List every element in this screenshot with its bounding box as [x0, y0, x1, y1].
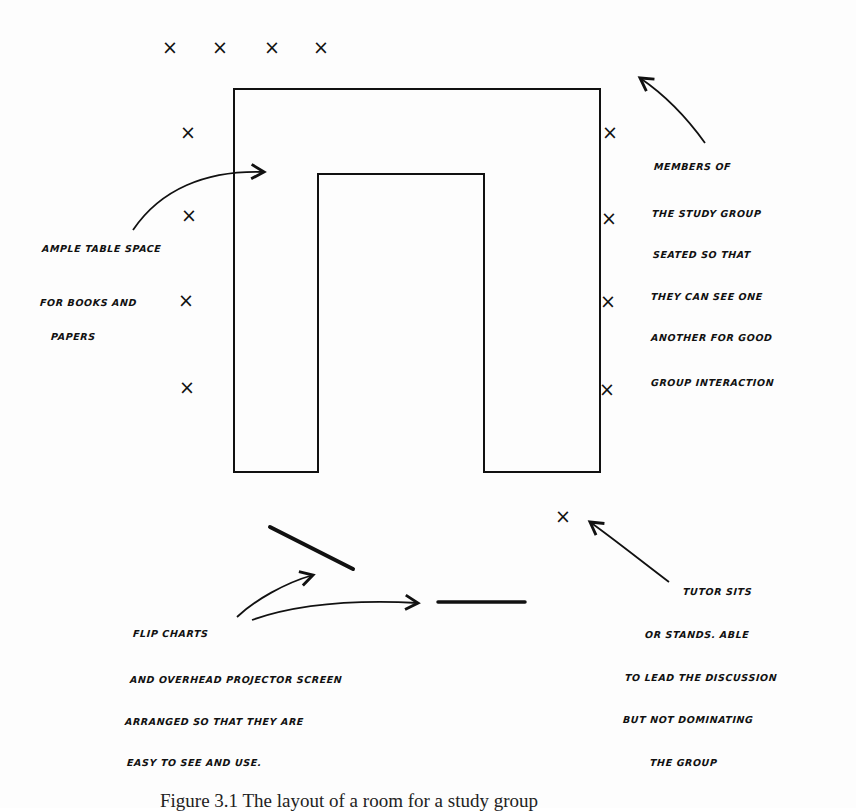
u-shaped-table [234, 89, 600, 472]
note-members-6: GROUP INTERACTION [651, 377, 775, 388]
seat-left-mark: × [180, 121, 196, 143]
seat-left-mark: × [181, 204, 197, 226]
arrow-table-space [133, 172, 264, 230]
note-equipment-4: EASY TO SEE AND USE. [127, 757, 263, 768]
arrow-members [640, 78, 705, 143]
seat-left-mark: × [178, 289, 194, 311]
note-tutor-5: THE GROUP [650, 757, 718, 768]
seat-left-mark: × [179, 376, 195, 398]
seat-marks: ××××××××××××× [162, 36, 618, 527]
note-members-4: THEY CAN SEE ONE [651, 291, 764, 302]
flip-chart [270, 527, 353, 569]
note-equipment-2: AND OVERHEAD PROJECTOR SCREEN [130, 674, 343, 685]
arrow-flip-chart [237, 575, 313, 617]
seat-top-mark: × [162, 36, 178, 58]
seat-tutor-mark: × [555, 505, 571, 527]
seat-top-mark: × [264, 36, 280, 58]
seat-right-mark: × [601, 207, 617, 229]
note-tutor-3: TO LEAD THE DISCUSSION [625, 672, 778, 683]
arrow-tutor [590, 522, 669, 582]
note-members-2: THE STUDY GROUP [652, 208, 762, 219]
note-equipment-1: FLIP CHARTS [133, 628, 209, 639]
seat-right-mark: × [599, 378, 615, 400]
seat-top-mark: × [212, 36, 228, 58]
seat-right-mark: × [602, 121, 618, 143]
seat-top-mark: × [313, 36, 329, 58]
note-tutor-4: BUT NOT DOMINATING [623, 714, 754, 725]
note-equipment-3: ARRANGED SO THAT THEY ARE [125, 716, 305, 727]
note-members-3: SEATED SO THAT [653, 249, 752, 260]
arrow-screen [252, 602, 418, 620]
note-table-space-2: FOR BOOKS AND [40, 297, 138, 308]
note-table-space-3: PAPERS [51, 331, 96, 342]
note-table-space-1: AMPLE TABLE SPACE [42, 243, 162, 254]
seat-right-mark: × [600, 290, 616, 312]
figure-caption: Figure 3.1 The layout of a room for a st… [160, 790, 538, 812]
note-tutor-1: TUTOR SITS [683, 586, 753, 597]
note-members-5: ANOTHER FOR GOOD [651, 332, 773, 343]
note-members-1: MEMBERS OF [654, 161, 732, 172]
note-tutor-2: OR STANDS. ABLE [645, 629, 750, 640]
